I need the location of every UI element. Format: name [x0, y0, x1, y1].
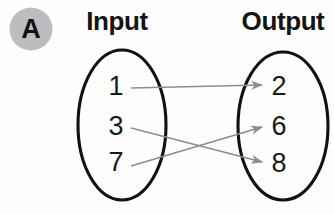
figure-canvas: A Input Output 1 3 7 2 6 8: [0, 0, 334, 214]
output-value-8: 8: [271, 148, 286, 178]
output-header: Output: [242, 6, 326, 36]
mapping-diagram: A Input Output 1 3 7 2 6 8: [0, 0, 334, 214]
figure-label-badge: A: [10, 8, 53, 51]
output-value-6: 6: [271, 111, 286, 141]
input-value-3: 3: [108, 111, 123, 141]
output-value-2: 2: [271, 71, 286, 101]
input-value-1: 1: [108, 71, 123, 101]
arrow-1-to-2: [131, 85, 262, 88]
badge-letter: A: [21, 14, 41, 44]
input-value-7: 7: [108, 147, 123, 177]
input-header: Input: [86, 6, 148, 36]
